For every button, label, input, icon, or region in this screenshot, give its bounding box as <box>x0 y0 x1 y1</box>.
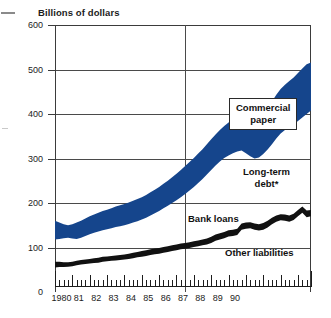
x-tick-34 <box>203 280 204 287</box>
x-tick-42 <box>237 280 238 287</box>
x-tick-19 <box>137 280 138 287</box>
y-tick-300 <box>48 159 55 160</box>
x-tick-23 <box>155 280 156 287</box>
x-tick-29 <box>181 280 182 287</box>
x-tick-40 <box>229 275 230 287</box>
x-tick-51 <box>276 280 277 287</box>
x-tick-24 <box>159 275 160 287</box>
x-tick-0 <box>55 271 56 287</box>
x-tick-54 <box>289 280 290 287</box>
y-axis-label-500: 500 <box>13 65 43 75</box>
x-tick-17 <box>129 280 130 287</box>
x-tick-27 <box>172 280 173 287</box>
y-axis-label-600: 600 <box>13 20 43 30</box>
y-tick-600 <box>48 25 55 26</box>
x-tick-58 <box>307 280 308 287</box>
x-tick-39 <box>224 280 225 287</box>
x-tick-22 <box>150 280 151 287</box>
x-tick-47 <box>259 280 260 287</box>
x-axis-label-90: 90 <box>215 293 255 303</box>
x-tick-6 <box>81 280 82 287</box>
commercial-paper-band <box>55 62 311 239</box>
x-tick-43 <box>242 280 243 287</box>
x-tick-8 <box>90 275 91 287</box>
y-tick-400 <box>48 114 55 115</box>
x-tick-46 <box>255 280 256 287</box>
x-tick-2 <box>64 280 65 287</box>
x-tick-18 <box>133 280 134 287</box>
x-tick-15 <box>120 280 121 287</box>
x-tick-20 <box>142 275 143 287</box>
y-axis-label-0: 0 <box>13 287 43 297</box>
x-tick-11 <box>103 280 104 287</box>
x-tick-21 <box>146 280 147 287</box>
x-tick-56 <box>298 275 299 287</box>
x-tick-49 <box>268 280 269 287</box>
x-tick-31 <box>190 280 191 287</box>
chart-axis-title: Billions of dollars <box>38 7 120 18</box>
x-tick-53 <box>285 280 286 287</box>
x-tick-10 <box>98 280 99 287</box>
label-long-term-debt: Long-term debt* <box>243 166 290 189</box>
x-tick-1 <box>59 280 60 287</box>
x-tick-26 <box>168 280 169 287</box>
x-tick-59 <box>311 271 312 287</box>
y-tick-500 <box>48 70 55 71</box>
x-tick-45 <box>250 280 251 287</box>
y-axis-label-400: 400 <box>13 109 43 119</box>
x-tick-12 <box>107 275 108 287</box>
y-tick-100 <box>48 248 55 249</box>
x-tick-3 <box>68 280 69 287</box>
x-tick-13 <box>111 280 112 287</box>
x-tick-16 <box>124 275 125 287</box>
x-tick-7 <box>85 280 86 287</box>
y-axis-label-100: 100 <box>13 243 43 253</box>
x-tick-52 <box>281 275 282 287</box>
x-tick-55 <box>294 280 295 287</box>
y-axis-label-300: 300 <box>13 154 43 164</box>
x-tick-57 <box>302 280 303 287</box>
x-tick-38 <box>220 280 221 287</box>
chart-root: Billions of dollars 0100200300400500600 … <box>0 0 331 318</box>
x-tick-14 <box>116 280 117 287</box>
x-tick-36 <box>211 275 212 287</box>
label-bank-loans: Bank loans <box>188 213 239 225</box>
x-tick-50 <box>272 280 273 287</box>
x-tick-44 <box>246 275 247 287</box>
x-tick-35 <box>207 280 208 287</box>
x-tick-48 <box>263 275 264 287</box>
x-tick-37 <box>216 280 217 287</box>
x-tick-28 <box>176 275 177 287</box>
x-tick-33 <box>198 280 199 287</box>
y-axis-label-200: 200 <box>13 198 43 208</box>
label-commercial-paper: Commercial paper <box>229 98 297 130</box>
scan-artifact-dash-2 <box>2 128 8 129</box>
x-tick-30 <box>185 280 186 287</box>
label-other-liabilities: Other liabilities <box>225 247 294 259</box>
scan-artifact-dash <box>1 12 15 14</box>
x-tick-25 <box>163 280 164 287</box>
x-tick-32 <box>194 275 195 287</box>
x-tick-41 <box>233 280 234 287</box>
x-tick-9 <box>94 280 95 287</box>
x-axis-ticks <box>55 270 311 287</box>
x-tick-5 <box>77 280 78 287</box>
y-tick-200 <box>48 203 55 204</box>
x-tick-4 <box>72 275 73 287</box>
